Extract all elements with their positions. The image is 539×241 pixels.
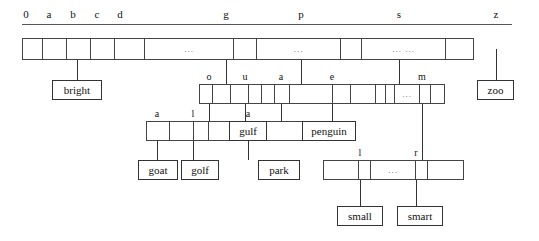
node-g[interactable] (199, 84, 276, 104)
node-p-cell-0[interactable] (275, 85, 290, 103)
root-node[interactable]: ......... ... (22, 38, 474, 60)
node-sm[interactable]: ... (323, 160, 464, 180)
node-go-cell-3[interactable] (209, 122, 229, 140)
root-node-cell-7[interactable]: ... (257, 39, 341, 59)
leaf-park[interactable]: park (258, 160, 300, 180)
index-label-g: g (223, 8, 229, 20)
root-node-cell-6[interactable] (234, 39, 257, 59)
index-label-z: z (494, 8, 499, 20)
node-sm-cell-1[interactable] (359, 161, 371, 179)
node-s-cell-1[interactable] (386, 85, 395, 103)
node-s-cell-2[interactable]: ... (395, 85, 420, 103)
cell-label-l-8: l (359, 148, 362, 158)
leaf-smart[interactable]: smart (397, 206, 443, 226)
index-header-rule (22, 24, 512, 25)
leaf-golf[interactable]: golf (181, 160, 219, 180)
node-p[interactable] (274, 84, 380, 104)
root-node-cell-3[interactable] (91, 39, 115, 59)
index-label-0: 0 (23, 8, 29, 20)
cell-label-m-4: m (418, 72, 426, 82)
root-node-cell-4[interactable] (115, 39, 145, 59)
cell-label-o-0: o (207, 72, 212, 82)
index-label-a: a (47, 8, 52, 20)
leaf-bright[interactable]: bright (52, 80, 102, 100)
leaf-goat[interactable]: goat (138, 160, 178, 180)
node-g-cell-2[interactable] (231, 85, 249, 103)
root-node-cell-9[interactable]: ... ... (362, 39, 446, 59)
node-go-cell-0[interactable] (147, 122, 170, 140)
node-go-cell-2[interactable] (194, 122, 209, 140)
node-s-cell-3[interactable] (420, 85, 431, 103)
index-label-d: d (117, 8, 123, 20)
cell-label-l-6: l (192, 109, 195, 119)
node-sm-cell-4[interactable] (428, 161, 463, 179)
index-label-s: s (397, 8, 401, 20)
cell-label-u-1: u (243, 72, 248, 82)
trie-diagram: 0abcdgpsz ......... ......... ouaemalalr… (0, 0, 539, 241)
root-node-cell-10[interactable] (446, 39, 473, 59)
leaf-penguin[interactable]: penguin (302, 121, 356, 141)
node-s[interactable]: ... (375, 84, 445, 104)
node-p-cell-2[interactable] (333, 85, 351, 103)
root-node-cell-1[interactable] (43, 39, 67, 59)
node-g-cell-0[interactable] (200, 85, 213, 103)
index-label-b: b (70, 8, 76, 20)
cell-label-a-7: a (246, 109, 250, 119)
node-s-cell-0[interactable] (376, 85, 386, 103)
root-node-cell-5[interactable]: ... (145, 39, 234, 59)
node-sm-cell-2[interactable]: ... (371, 161, 416, 179)
index-label-c: c (95, 8, 100, 20)
node-sm-cell-3[interactable] (416, 161, 428, 179)
cell-label-a-2: a (279, 72, 283, 82)
root-node-cell-8[interactable] (341, 39, 362, 59)
cell-label-r-9: r (414, 148, 417, 158)
root-node-cell-2[interactable] (67, 39, 91, 59)
root-node-cell-0[interactable] (23, 39, 43, 59)
index-label-p: p (298, 8, 304, 20)
node-p-cell-1[interactable] (290, 85, 333, 103)
leaf-gulf[interactable]: gulf (229, 121, 267, 141)
cell-label-e-3: e (330, 72, 334, 82)
cell-label-a-5: a (155, 109, 159, 119)
leaf-zoo[interactable]: zoo (477, 80, 514, 100)
link-root-z-to-zoo (496, 49, 497, 80)
leaf-small[interactable]: small (337, 206, 383, 226)
node-s-cell-4[interactable] (431, 85, 444, 103)
node-go[interactable] (146, 121, 230, 141)
node-sm-cell-0[interactable] (324, 161, 359, 179)
node-go-cell-1[interactable] (170, 122, 194, 140)
node-g-cell-1[interactable] (213, 85, 231, 103)
node-g-cell-3[interactable] (249, 85, 262, 103)
